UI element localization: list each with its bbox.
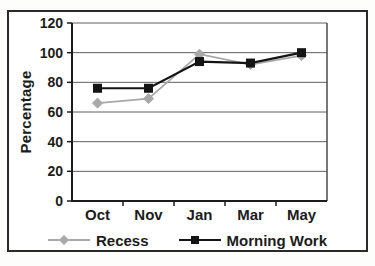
y-tick-label-80: 80	[47, 74, 63, 90]
y-axis-title: Percentage	[17, 71, 34, 154]
y-tick-label-20: 20	[47, 163, 63, 179]
legend-label: Morning Work	[227, 232, 328, 249]
chart-frame: 020406080100120OctNovJanMarMay Percentag…	[7, 10, 368, 252]
x-category-label-may: May	[287, 206, 317, 223]
y-tick-label-120: 120	[40, 15, 64, 31]
legend-item-morning-work: Morning Work	[179, 232, 328, 249]
series-morning-work-marker-1	[144, 84, 153, 93]
series-recess-marker-0	[93, 98, 103, 108]
series-morning-work-marker-2	[195, 57, 204, 66]
series-morning-work-marker-0	[93, 84, 102, 93]
series-morning-work-marker-4	[297, 48, 306, 57]
diamond-legend-marker-icon	[48, 233, 90, 247]
x-category-label-jan: Jan	[187, 206, 213, 223]
y-tick-label-60: 60	[47, 104, 63, 120]
legend-item-recess: Recess	[48, 232, 149, 249]
chart-svg: 020406080100120OctNovJanMarMay	[9, 12, 366, 250]
y-tick-label-100: 100	[40, 45, 64, 61]
page: 020406080100120OctNovJanMarMay Percentag…	[0, 0, 375, 266]
series-morning-work-marker-3	[246, 59, 255, 68]
legend: RecessMorning Work	[9, 230, 366, 250]
y-tick-label-0: 0	[55, 193, 63, 209]
x-category-label-mar: Mar	[237, 206, 264, 223]
legend-label: Recess	[96, 232, 149, 249]
x-category-label-oct: Oct	[85, 206, 110, 223]
y-tick-label-40: 40	[47, 134, 63, 150]
x-category-label-nov: Nov	[134, 206, 163, 223]
square-legend-marker-icon	[179, 233, 221, 247]
